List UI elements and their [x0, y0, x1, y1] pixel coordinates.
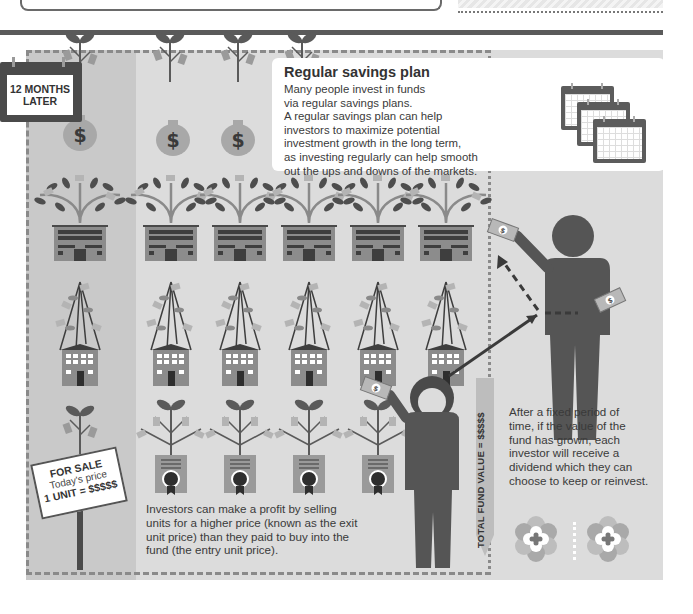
calendar-ring	[62, 57, 65, 67]
profit-line: Investors can make a profit by selling	[146, 502, 357, 516]
calendar-tag-page: 12 MONTHS LATER	[7, 75, 73, 115]
profit-line: units for a higher price (known as the e…	[146, 516, 357, 530]
calendar-tag: 12 MONTHS LATER	[0, 62, 82, 122]
info-line: via regular savings plans.	[284, 97, 529, 111]
info-line: as investing regularly can help smooth	[284, 151, 529, 165]
dividend-line: investor will receive a	[509, 446, 648, 460]
profit-explanation: Investors can make a profit by selling u…	[146, 502, 357, 557]
calendar-stack-icon	[561, 86, 651, 161]
info-line: A regular savings plan can help	[284, 110, 529, 124]
calendar-tag-label: 12 MONTHS LATER	[7, 83, 73, 107]
dividend-line: choose to keep or reinvest.	[509, 474, 648, 488]
dividend-explanation: After a fixed period of time, if the val…	[509, 405, 648, 488]
info-box-text: Many people invest in funds via regular …	[284, 83, 529, 178]
dividend-line: fund has grown, each	[509, 433, 648, 447]
investor-figure-small	[390, 376, 459, 568]
flower-separator	[573, 522, 576, 560]
profit-line: unit price) than they paid to buy into t…	[146, 530, 357, 544]
dividend-line: After a fixed period of	[509, 405, 648, 419]
regular-savings-info-box: Regular savings plan Many people invest …	[272, 58, 665, 171]
info-box-title: Regular savings plan	[284, 64, 653, 80]
total-fund-value-label: TOTAL FUND VALUE = $$$$$	[475, 412, 486, 548]
info-line: Many people invest in funds	[284, 83, 529, 97]
info-line: investors to maximize potential	[284, 124, 529, 138]
profit-line: fund (the entry unit price).	[146, 543, 357, 557]
calendar-ring	[12, 57, 15, 67]
info-line: investment growth in the long term,	[284, 137, 529, 151]
info-line: out the ups and downs of the markets.	[284, 165, 529, 179]
dividend-line: dividend which they can	[509, 460, 648, 474]
dividend-line: time, if the value of the	[509, 419, 648, 433]
